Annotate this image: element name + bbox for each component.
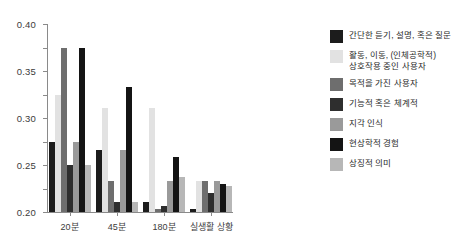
- bar-groups: 20분45분180분실생활 상황: [48, 24, 233, 212]
- x-axis-tick-label: 180분: [153, 220, 176, 233]
- y-axis-tick-label: 0.35: [17, 66, 36, 77]
- bar: [132, 202, 138, 212]
- y-axis-tick: 0.35: [43, 48, 47, 49]
- legend-item[interactable]: 활동, 이동, (인체공학적) 상호작용 중인 사용자: [330, 50, 470, 71]
- y-axis-tick-label: 0.40: [17, 19, 36, 30]
- x-axis-tick: [211, 212, 212, 216]
- chart-legend: 간단한 듣기, 설명, 혹은 질문활동, 이동, (인체공학적) 상호작용 중인…: [330, 30, 470, 178]
- legend-label: 목적을 가진 사용자: [349, 78, 418, 89]
- y-axis-tick: 0.15: [43, 142, 47, 143]
- legend-label: 기능적 혹은 체계적: [349, 98, 418, 109]
- legend-swatch: [330, 50, 343, 63]
- x-axis: [47, 212, 233, 213]
- legend-label: 상징적 의미: [349, 158, 391, 169]
- x-axis-tick-label: 20분: [61, 220, 79, 233]
- bar: [126, 87, 132, 212]
- legend-swatch: [330, 78, 343, 91]
- y-axis-tick: 0.40: [43, 24, 47, 25]
- bar: [149, 108, 155, 212]
- legend-swatch: [330, 98, 343, 111]
- x-axis-tick-label: 45분: [108, 220, 126, 233]
- bar-group: 실생활 상황: [190, 24, 233, 212]
- legend-label: 활동, 이동, (인체공학적) 상호작용 중인 사용자: [349, 50, 436, 71]
- bar: [179, 177, 185, 212]
- legend-item[interactable]: 기능적 혹은 체계적: [330, 98, 470, 111]
- legend-item[interactable]: 지각 인식: [330, 118, 470, 131]
- legend-item[interactable]: 상징적 의미: [330, 158, 470, 171]
- x-axis-tick: [117, 212, 118, 216]
- x-axis-tick: [70, 212, 71, 216]
- y-axis-tick: 0.25: [43, 95, 47, 96]
- bar-group: 45분: [95, 24, 138, 212]
- plot-area: 0.000.050.100.150.200.250.300.350.40 20분…: [47, 24, 233, 212]
- legend-item[interactable]: 목적을 가진 사용자: [330, 78, 470, 91]
- y-axis-tick: 0.00: [43, 212, 47, 213]
- x-axis-tick-label: 실생활 상황: [190, 220, 233, 233]
- legend-swatch: [330, 30, 343, 43]
- x-axis-tick: [164, 212, 165, 216]
- legend-label: 지각 인식: [349, 118, 383, 129]
- y-axis-tick-label: 0.25: [17, 160, 36, 171]
- legend-item[interactable]: 간단한 듣기, 설명, 혹은 질문: [330, 30, 470, 43]
- legend-swatch: [330, 138, 343, 151]
- y-axis-tick: 0.05: [43, 189, 47, 190]
- bar: [85, 165, 91, 212]
- legend-label: 현상학적 경험: [349, 138, 399, 149]
- bar-group: 20분: [48, 24, 91, 212]
- legend-label: 간단한 듣기, 설명, 혹은 질문: [349, 30, 451, 41]
- y-axis-tick: 0.10: [43, 165, 47, 166]
- y-axis-tick: 0.20: [43, 118, 47, 119]
- y-axis-tick: 0.30: [43, 71, 47, 72]
- legend-swatch: [330, 118, 343, 131]
- y-axis-tick-label: 0.20: [17, 207, 36, 218]
- y-axis-tick-label: 0.30: [17, 113, 36, 124]
- chart-container: 0.000.050.100.150.200.250.300.350.40 20분…: [0, 0, 472, 248]
- bar-group: 180분: [143, 24, 186, 212]
- legend-swatch: [330, 158, 343, 171]
- legend-item[interactable]: 현상학적 경험: [330, 138, 470, 151]
- bar: [226, 186, 232, 212]
